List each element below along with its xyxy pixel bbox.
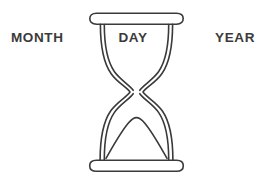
hourglass-sand-pile (106, 118, 167, 159)
hourglass-svg (0, 0, 266, 184)
hourglass-diagram: MONTH DAY YEAR (0, 0, 266, 184)
label-year: YEAR (215, 31, 255, 45)
hourglass-lower-chamber-inner-left (104, 94, 133, 160)
hourglass-icon (0, 0, 266, 184)
hourglass-lower-chamber-inner-right (140, 94, 169, 160)
